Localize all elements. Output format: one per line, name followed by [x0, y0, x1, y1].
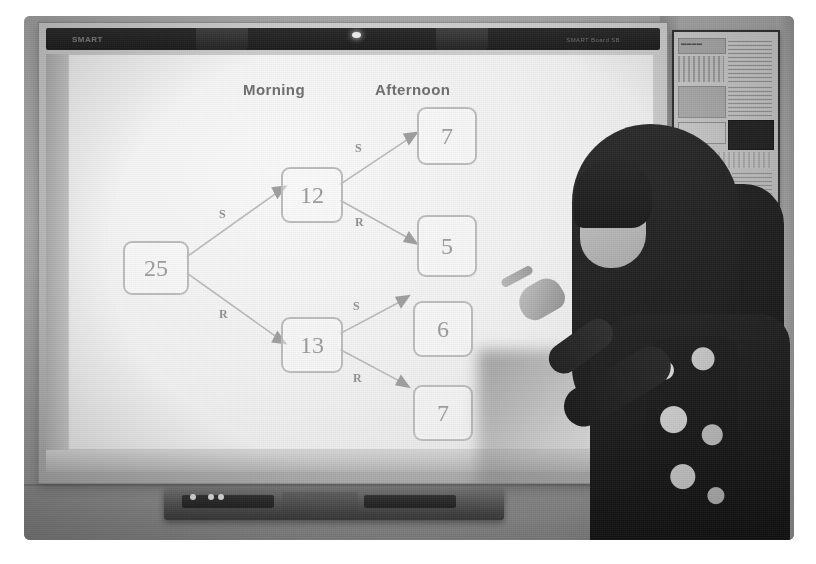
tree-node-afternoon-rs[interactable]: 6	[413, 301, 473, 357]
board-bezel-tab-right	[436, 28, 488, 50]
tray-keyboard-button-icon[interactable]	[208, 494, 214, 500]
edge-label-root-r: R	[219, 307, 228, 322]
pen-slot-right[interactable]	[364, 495, 456, 508]
board-top-bezel: SMART SMART Board SB	[46, 28, 660, 50]
tree-node-afternoon-ss[interactable]: 7	[417, 107, 477, 165]
poster-title-text: ▬▬▬▬	[681, 40, 702, 46]
tray-help-button-icon[interactable]	[218, 494, 224, 500]
edge-label-13-r: R	[353, 371, 362, 386]
classroom-photograph: ▬▬▬▬ SMART SMART Board SB	[24, 16, 794, 540]
tree-node-morning-r[interactable]: 13	[281, 317, 343, 373]
tree-node-afternoon-sr[interactable]: 5	[417, 215, 477, 277]
edge-label-root-s: S	[219, 207, 226, 222]
tree-node-morning-s[interactable]: 12	[281, 167, 343, 223]
teacher-figure	[494, 124, 794, 540]
board-bezel-tab-left	[196, 28, 248, 50]
poster-text-block-right	[728, 38, 772, 82]
tree-node-root[interactable]: 25	[123, 241, 189, 295]
photo-page: ▬▬▬▬ SMART SMART Board SB	[0, 0, 816, 564]
smart-logo: SMART	[72, 35, 103, 44]
board-model-label: SMART Board SB	[566, 37, 620, 43]
hair-fringe	[574, 158, 652, 228]
board-status-led-icon	[352, 32, 361, 38]
tray-power-button-icon[interactable]	[190, 494, 196, 500]
pen-tray[interactable]	[164, 488, 504, 520]
poster-grid-right	[728, 86, 772, 116]
edge-label-13-s: S	[353, 299, 360, 314]
poster-image-left	[678, 56, 724, 82]
edge-label-12-r: R	[355, 215, 364, 230]
tree-node-afternoon-rr[interactable]: 7	[413, 385, 473, 441]
board-left-rail	[46, 54, 68, 450]
poster-grid-left	[678, 86, 726, 118]
edge-label-12-s: S	[355, 141, 362, 156]
pointing-hand	[513, 273, 570, 325]
pen-tray-center-module[interactable]	[282, 492, 358, 514]
